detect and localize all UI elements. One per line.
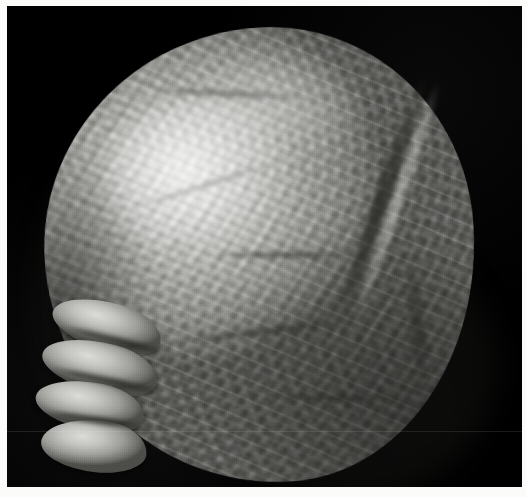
photograph-plate — [7, 6, 522, 487]
lower-fissure — [397, 254, 467, 404]
specimen-subject — [45, 24, 477, 486]
figure-root: Black-and-white photograph of an ovoid b… — [0, 0, 526, 497]
crown-highlight-secondary — [175, 46, 375, 156]
